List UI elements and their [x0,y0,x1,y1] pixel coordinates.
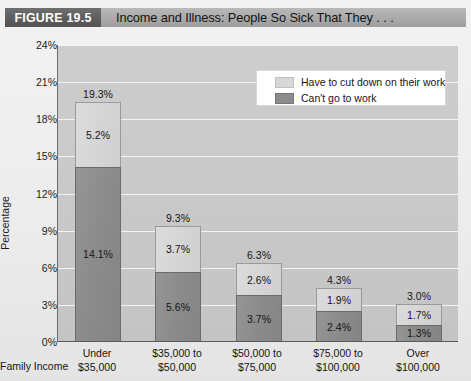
bar-segment-label: 2.4% [317,321,361,333]
chart-legend: Have to cut down on their work Can't go … [256,70,446,106]
bar-segment-cut-down[interactable]: 3.7% [155,226,201,272]
y-axis-tick-label: 18% [5,113,57,125]
x-axis-tick-label: Over$100,000 [378,346,458,374]
bar-segment-cant-work[interactable]: 5.6% [155,272,201,341]
bar-group[interactable]: 4.3%1.9%2.4% [316,288,362,341]
x-axis-tick-line: $100,000 [378,360,458,374]
bar-segment-label: 3.7% [156,243,200,255]
figure-number-badge: FIGURE 19.5 [5,8,101,27]
bar-segment-label: 3.7% [237,313,281,325]
y-axis-tick-label: 21% [5,76,57,88]
bar-group[interactable]: 3.0%1.7%1.3% [396,304,442,341]
x-axis-tick-label: $75,000 to$100,000 [298,346,378,374]
bar-segment-label: 14.1% [76,248,120,260]
y-axis-tick-label: 12% [5,188,57,200]
bar-total-label: 4.3% [308,274,370,286]
legend-swatch-light-icon [275,77,294,88]
bar-segment-cant-work[interactable]: 14.1% [75,167,121,341]
x-axis-tick-label: $35,000 to$50,000 [137,346,217,374]
x-axis-tick-line: $75,000 to [298,346,378,360]
x-axis: Under$35,000$35,000 to$50,000$50,000 to$… [57,346,458,378]
bar-segment-label: 5.6% [156,301,200,313]
figure-title: Income and Illness: People So Sick That … [101,8,466,27]
x-axis-tick-label: $50,000 to$75,000 [217,346,297,374]
bar-group[interactable]: 9.3%3.7%5.6% [155,226,201,341]
bar-segment-cut-down[interactable]: 5.2% [75,102,121,166]
legend-swatch-dark-icon [275,93,294,104]
chart-plot-area: 19.3%5.2%14.1%9.3%3.7%5.6%6.3%2.6%3.7%4.… [57,45,458,342]
bar-segment-cut-down[interactable]: 1.9% [316,288,362,312]
bar-segment-cant-work[interactable]: 2.4% [316,311,362,341]
x-axis-label: Family Income [0,360,56,372]
x-axis-tick-line: Under [57,346,137,360]
x-axis-tick-line: $100,000 [298,360,378,374]
y-axis: Percentage 24%21%18%15%12%9%6%3%0% [0,45,57,342]
y-axis-tick-label: 15% [5,150,57,162]
x-axis-tick-line: Over [378,346,458,360]
bar-total-label: 9.3% [147,212,209,224]
legend-label: Can't go to work [301,92,377,104]
y-axis-tick-label: 24% [5,39,57,51]
x-axis-tick-line: $50,000 [137,360,217,374]
bar-segment-cant-work[interactable]: 1.3% [396,325,442,341]
gridline [58,45,458,46]
x-axis-tick-label: Under$35,000 [57,346,137,374]
legend-item: Can't go to work [275,91,445,105]
bar-segment-label: 1.7% [397,309,441,321]
legend-label: Have to cut down on their work [301,76,445,88]
legend-item: Have to cut down on their work [275,75,445,89]
bar-segment-label: 1.3% [397,327,441,339]
bar-group[interactable]: 6.3%2.6%3.7% [236,263,282,341]
x-axis-tick-line: $50,000 to [217,346,297,360]
bar-total-label: 6.3% [228,249,290,261]
y-axis-tick-label: 0% [5,336,57,348]
bar-segment-cant-work[interactable]: 3.7% [236,295,282,341]
bar-group[interactable]: 19.3%5.2%14.1% [75,102,121,341]
y-axis-label: Percentage [0,196,11,250]
y-axis-tick-label: 3% [5,299,57,311]
bar-segment-cut-down[interactable]: 2.6% [236,263,282,295]
x-axis-tick-line: $35,000 to [137,346,217,360]
figure-header: FIGURE 19.5 Income and Illness: People S… [5,8,466,27]
bar-segment-label: 1.9% [317,294,361,306]
x-axis-tick-line: $35,000 [57,360,137,374]
bar-segment-cut-down[interactable]: 1.7% [396,304,442,325]
y-axis-tick-label: 9% [5,225,57,237]
bar-segment-label: 2.6% [237,274,281,286]
y-axis-tick-label: 6% [5,262,57,274]
bar-total-label: 3.0% [388,290,450,302]
figure-container: FIGURE 19.5 Income and Illness: People S… [0,0,471,381]
x-axis-tick-line: $75,000 [217,360,297,374]
bar-segment-label: 5.2% [76,129,120,141]
bar-total-label: 19.3% [67,88,129,100]
